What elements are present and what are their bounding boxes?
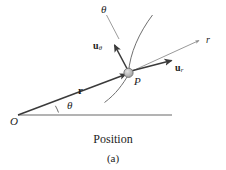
u-r-label: ur (175, 63, 184, 74)
theta-angle-arc (55, 106, 58, 113)
r-coordinate-curve (105, 75, 129, 103)
figure-caption-panel: (a) (0, 153, 226, 164)
r-axis-label: r (206, 35, 210, 45)
point-p-label: P (134, 76, 141, 87)
r-vector-label: r (78, 85, 83, 96)
position-polar-coordinates-figure: θ uθ ur r P r θ O Position (a) (0, 0, 226, 170)
origin-label: O (10, 116, 18, 127)
u-r-base: u (175, 62, 181, 73)
theta-label-leader-line (107, 15, 120, 39)
u-theta-unit-vector (115, 45, 128, 70)
theta-angle-label: θ (67, 100, 72, 111)
figure-caption-main: Position (0, 133, 226, 145)
u-theta-label: uθ (93, 41, 102, 52)
theta-top-label: θ (101, 4, 106, 15)
particle-marker (124, 68, 133, 77)
r-axis-line (130, 41, 199, 73)
u-theta-subscript: θ (99, 44, 102, 51)
u-r-subscript: r (181, 66, 184, 73)
u-theta-base: u (93, 40, 99, 51)
